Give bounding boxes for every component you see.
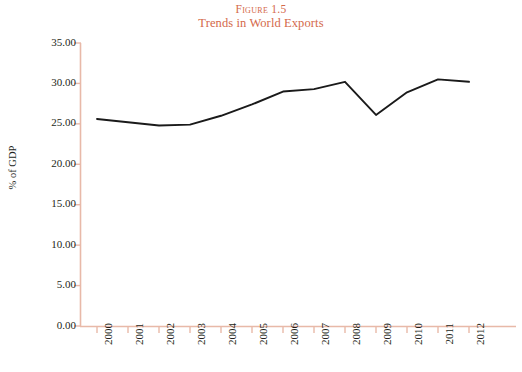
x-axis-tick-label: 2003 xyxy=(195,323,207,369)
x-axis-tick-label: 2011 xyxy=(443,323,455,369)
x-axis-tick-label: 2006 xyxy=(288,323,300,369)
x-axis-tick-label: 2002 xyxy=(164,323,176,369)
x-axis-tick-labels: 2000200120022003200420052006200720082009… xyxy=(0,0,522,372)
x-axis-tick-label: 2005 xyxy=(257,323,269,369)
chart-plot-area: 35.0030.0025.0020.0015.0010.005.000.00 2… xyxy=(0,0,522,372)
x-axis-tick-label: 2007 xyxy=(319,323,331,369)
x-axis-tick-label: 2001 xyxy=(133,323,145,369)
x-axis-tick-label: 2008 xyxy=(350,323,362,369)
x-axis-tick-label: 2000 xyxy=(102,323,114,369)
x-axis-tick-label: 2012 xyxy=(474,323,486,369)
x-axis-tick-label: 2004 xyxy=(226,323,238,369)
x-axis-tick-label: 2010 xyxy=(412,323,424,369)
x-axis-tick-label: 2009 xyxy=(381,323,393,369)
y-axis-title: % of GDP xyxy=(7,128,18,208)
